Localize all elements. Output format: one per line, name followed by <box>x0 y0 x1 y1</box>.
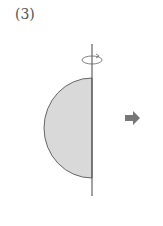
right-arrow-icon <box>125 111 140 125</box>
semicircle-shape <box>44 78 92 178</box>
rotation-figure <box>0 0 163 226</box>
